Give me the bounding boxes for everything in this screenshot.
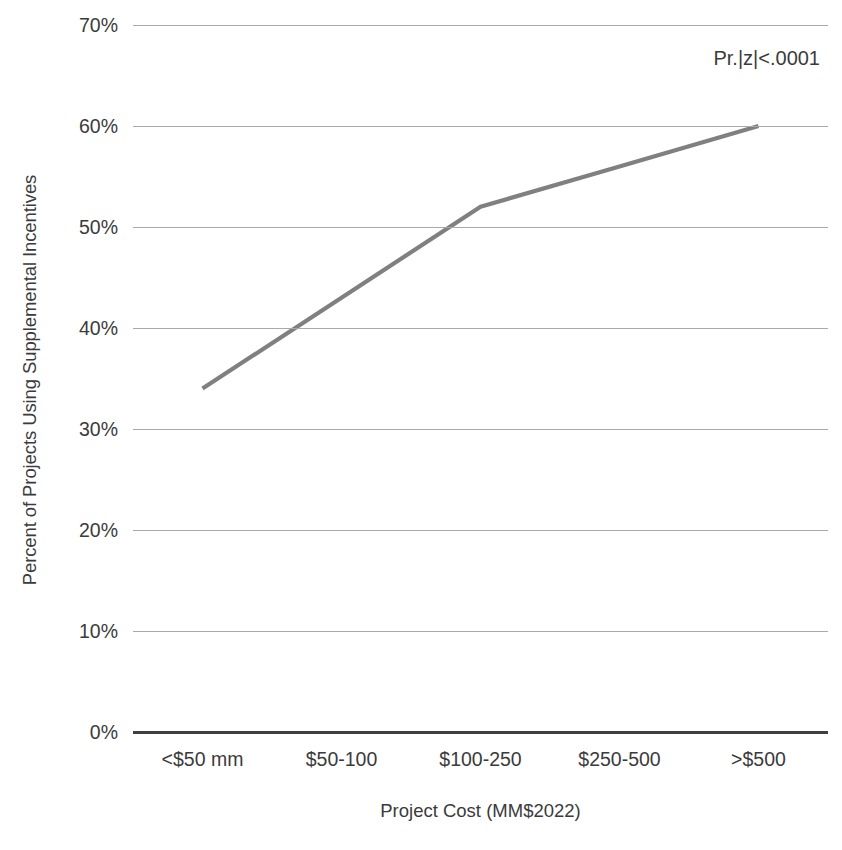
- y-tick-label: 50%: [50, 216, 118, 239]
- x-axis-title: Project Cost (MM$2022): [133, 800, 828, 822]
- gridline-70: [133, 25, 828, 26]
- x-tick-label: $100-250: [411, 748, 550, 782]
- x-tick-label: <$50 mm: [133, 748, 272, 782]
- y-axis-tick-labels: 0%10%20%30%40%50%60%70%: [50, 0, 118, 850]
- data-series-line-0: [203, 126, 759, 389]
- y-tick-label: 30%: [50, 418, 118, 441]
- gridline-60: [133, 126, 828, 127]
- significance-annotation: Pr.|z|<.0001: [713, 47, 820, 70]
- gridline-50: [133, 227, 828, 228]
- y-tick-label: 60%: [50, 115, 118, 138]
- y-tick-label: 0%: [50, 721, 118, 744]
- line-chart: Percent of Projects Using Supplemental I…: [0, 0, 842, 850]
- y-tick-label: 70%: [50, 14, 118, 37]
- y-tick-label: 40%: [50, 317, 118, 340]
- gridline-30: [133, 429, 828, 430]
- y-tick-label: 20%: [50, 519, 118, 542]
- gridline-10: [133, 631, 828, 632]
- plot-area: [133, 25, 828, 732]
- y-axis-title: Percent of Projects Using Supplemental I…: [14, 10, 46, 750]
- gridline-20: [133, 530, 828, 531]
- x-tick-label: $250-500: [550, 748, 689, 782]
- x-tick-label: >$500: [689, 748, 828, 782]
- gridline-40: [133, 328, 828, 329]
- series-line-supplemental-incentives: [133, 25, 828, 732]
- x-axis-baseline: [133, 731, 828, 734]
- x-axis-tick-labels: <$50 mm$50-100$100-250$250-500>$500: [133, 748, 828, 782]
- x-tick-label: $50-100: [272, 748, 411, 782]
- y-tick-label: 10%: [50, 620, 118, 643]
